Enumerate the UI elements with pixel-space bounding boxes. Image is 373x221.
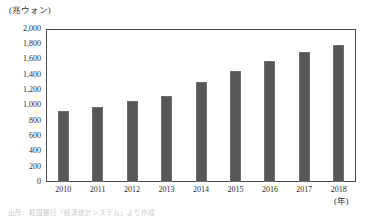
x-axis-tick-label: 2014 (193, 185, 209, 195)
y-axis-tick-label: 1,800 (23, 40, 41, 48)
x-axis-tick-label: 2013 (159, 185, 175, 195)
chart-figure: (兆ウォン) 02004006008001,0001,2001,4001,600… (0, 0, 373, 221)
chart-footnote: 出所：韓国銀行「経済統計システム」より作成 (8, 209, 365, 217)
bar (299, 52, 310, 182)
y-axis-tick-label: 1,400 (23, 71, 41, 79)
y-axis-tick-label: 1,600 (23, 55, 41, 63)
y-axis-tick-label: 400 (29, 147, 41, 155)
x-axis: 201020112012201320142015201620172018 (46, 185, 356, 199)
x-axis-tick-label: 2017 (296, 185, 312, 195)
bar (196, 82, 207, 182)
y-axis-tick-label: 1,000 (23, 101, 41, 109)
bar (58, 111, 69, 182)
y-axis-tick-label: 600 (29, 132, 41, 140)
x-axis-tick-label: 2011 (90, 185, 106, 195)
y-axis-tick-label: 200 (29, 163, 41, 171)
y-axis-unit-label: (兆ウォン) (9, 5, 51, 16)
bar (264, 61, 275, 182)
x-axis-tick-label: 2016 (262, 185, 278, 195)
x-axis-tick-label: 2010 (55, 185, 71, 195)
x-axis-tick-label: 2018 (331, 185, 347, 195)
bar (127, 101, 138, 182)
bar (333, 45, 344, 182)
y-axis-tick-label: 0 (37, 178, 41, 186)
x-axis-tick-label: 2012 (124, 185, 140, 195)
x-axis-title: (年) (334, 196, 349, 206)
y-axis-tick-label: 1,200 (23, 86, 41, 94)
bar (92, 107, 103, 182)
y-axis-tick-label: 2,000 (23, 25, 41, 33)
y-axis-tick-label: 800 (29, 117, 41, 125)
bar (161, 96, 172, 182)
bar-series (46, 29, 356, 183)
x-axis-tick-label: 2015 (227, 185, 243, 195)
bar (230, 71, 241, 182)
y-axis: 02004006008001,0001,2001,4001,6001,8002,… (0, 29, 44, 183)
